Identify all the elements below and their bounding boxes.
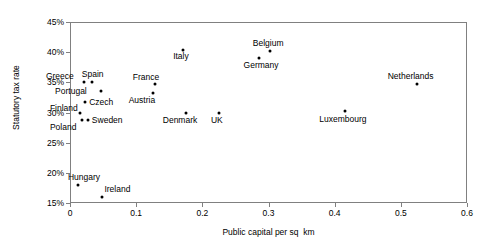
data-point — [86, 118, 89, 121]
data-point — [153, 83, 156, 86]
y-tick-mark — [66, 143, 70, 144]
data-point-label: Denmark — [163, 116, 197, 125]
x-tick-label: 0.5 — [386, 209, 416, 218]
data-point-label: Italy — [173, 52, 189, 61]
data-point-label: France — [133, 73, 159, 82]
data-point-label: Greece — [46, 72, 74, 81]
x-tick-label: 0.2 — [187, 209, 217, 218]
y-axis-title: Statutory tax rate — [12, 38, 21, 158]
x-tick-mark — [269, 203, 270, 207]
data-point — [268, 49, 271, 52]
data-point — [184, 111, 187, 114]
scatter-chart: Statutory tax rate Public capital per sq… — [0, 0, 487, 247]
data-point — [84, 100, 87, 103]
data-point-label: Belgium — [253, 39, 284, 48]
data-point — [151, 91, 154, 94]
data-point-label: Hungary — [68, 173, 100, 182]
y-tick-label: 40% — [32, 48, 64, 57]
x-tick-label: 0.6 — [452, 209, 482, 218]
x-tick-label: 0.1 — [121, 209, 151, 218]
y-tick-label: 20% — [32, 168, 64, 177]
data-point-label: Spain — [82, 70, 104, 79]
data-point — [76, 183, 79, 186]
y-tick-mark — [66, 22, 70, 23]
data-point — [217, 111, 220, 114]
data-point — [344, 109, 347, 112]
data-point-label: Czech — [89, 98, 113, 107]
data-point-label: Poland — [50, 123, 76, 132]
data-point — [80, 118, 83, 121]
x-tick-label: 0.3 — [254, 209, 284, 218]
data-point-label: Ireland — [104, 185, 130, 194]
data-point-label: Luxembourg — [319, 115, 366, 124]
y-tick-label: 15% — [32, 199, 64, 208]
data-point — [101, 195, 104, 198]
data-point — [78, 111, 81, 114]
y-tick-mark — [66, 52, 70, 53]
data-point-label: Finland — [50, 104, 78, 113]
x-axis-title: Public capital per sq km — [70, 228, 467, 237]
data-point — [82, 81, 85, 84]
x-tick-label: 0.4 — [320, 209, 350, 218]
x-tick-mark — [136, 203, 137, 207]
data-point-label: Netherlands — [388, 72, 434, 81]
y-tick-label: 45% — [32, 18, 64, 27]
data-point — [100, 90, 103, 93]
x-tick-mark — [202, 203, 203, 207]
y-tick-label: 25% — [32, 138, 64, 147]
x-tick-mark — [70, 203, 71, 207]
y-tick-mark — [66, 113, 70, 114]
data-point-label: Portugal — [55, 87, 87, 96]
x-tick-mark — [467, 203, 468, 207]
x-tick-label: 0 — [55, 209, 85, 218]
data-point-label: Austria — [129, 96, 155, 105]
x-tick-mark — [401, 203, 402, 207]
data-point — [415, 83, 418, 86]
data-point-label: Germany — [244, 61, 279, 70]
y-tick-mark — [66, 82, 70, 83]
x-tick-mark — [335, 203, 336, 207]
data-point-label: UK — [211, 116, 223, 125]
data-point-label: Sweden — [92, 116, 123, 125]
data-point — [90, 81, 93, 84]
